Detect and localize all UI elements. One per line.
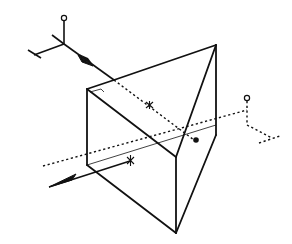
exit-axis-horizontal — [247, 125, 272, 138]
entry-axis-horizontal — [34, 44, 64, 55]
prism-bottom-front-edge — [87, 165, 176, 233]
prism-top-left-edge — [87, 80, 114, 89]
entry-axes — [28, 15, 67, 58]
entry-axis-tick-top — [52, 35, 64, 44]
prism-bottom-back-edge — [87, 125, 216, 165]
incident-arrow-icon — [78, 55, 93, 66]
exit-axis-circle-icon — [244, 95, 249, 100]
right-angle-marker — [90, 89, 104, 92]
prism-diagram — [0, 0, 292, 244]
exit-arrowhead-icon — [49, 174, 76, 187]
prism-top-back-edge — [114, 45, 216, 80]
exit-asterisk-icon — [127, 155, 134, 166]
internal-ray-down — [114, 80, 194, 140]
exit-ray — [49, 155, 134, 187]
incident-ray — [64, 44, 114, 80]
reflection-point-dot — [193, 137, 199, 143]
entry-asterisk-icon — [146, 101, 153, 109]
prism-front-top-edge — [87, 89, 176, 157]
entry-axis-circle-icon — [61, 15, 66, 20]
prism-bottom-hypotenuse-edge — [176, 135, 216, 233]
exit-axes — [244, 95, 280, 143]
